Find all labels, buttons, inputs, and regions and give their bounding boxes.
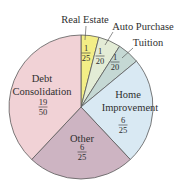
fraction-denominator: 25 — [119, 125, 128, 135]
fraction-numerator: 19 — [39, 97, 48, 107]
label-tuition: Tuition — [133, 37, 164, 48]
fraction-denominator: 25 — [82, 53, 91, 63]
fraction-debt-consolidation: 1950 — [39, 97, 48, 117]
label-real-estate: Real Estate — [61, 14, 109, 25]
fraction-denominator: 25 — [78, 152, 87, 162]
fraction-numerator: 6 — [80, 142, 84, 152]
label-home-improvement-line1: Home — [115, 89, 141, 100]
label-home-improvement-line2: Improvement — [102, 102, 159, 113]
label-auto-purchase: Auto Purchase — [112, 21, 174, 32]
fraction-numerator: 1 — [84, 43, 88, 53]
label-debt-line1: Debt — [32, 73, 52, 84]
fraction-numerator: 1 — [98, 46, 102, 56]
fraction-numerator: 6 — [121, 115, 125, 125]
fraction-denominator: 20 — [111, 62, 120, 72]
fraction-numerator: 1 — [113, 52, 117, 62]
fraction-denominator: 20 — [96, 56, 105, 66]
pie-chart: 125120120Real EstateAuto PurchaseTuition… — [0, 0, 183, 187]
fraction-denominator: 50 — [39, 107, 48, 117]
label-debt-line2: Consolidation — [13, 86, 73, 97]
